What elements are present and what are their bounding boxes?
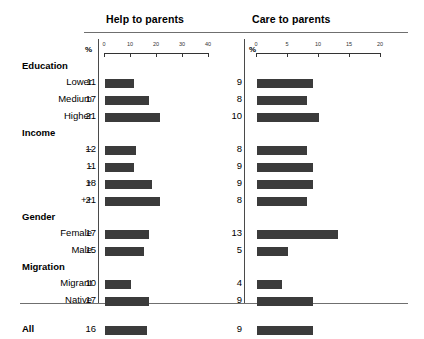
bar-care bbox=[257, 96, 307, 105]
axis-tick bbox=[380, 53, 381, 57]
row-value-help: 12 bbox=[80, 143, 96, 154]
bar-care bbox=[257, 230, 338, 239]
axis-tick bbox=[318, 53, 319, 57]
row-label: ++ bbox=[0, 194, 92, 205]
axis-tick bbox=[208, 53, 209, 57]
bar-care bbox=[257, 163, 313, 172]
bar-help bbox=[105, 230, 149, 239]
row-value-care: 8 bbox=[226, 143, 242, 154]
row-value-help: 11 bbox=[80, 76, 96, 87]
axis-tick-label: 20 bbox=[377, 41, 383, 47]
group-heading: Education bbox=[22, 60, 68, 71]
chart-row: +189 bbox=[0, 177, 424, 193]
bar-care bbox=[257, 113, 319, 122]
axis-tick-label: 10 bbox=[127, 41, 133, 47]
bar-care bbox=[257, 180, 313, 189]
panel-title-help: Help to parents bbox=[106, 13, 184, 25]
row-value-care: 5 bbox=[226, 244, 242, 255]
bar-help bbox=[105, 326, 147, 335]
row-value-care: 13 bbox=[226, 227, 242, 238]
row-value-help: 18 bbox=[80, 177, 96, 188]
axis-tick bbox=[349, 53, 350, 57]
row-value-help: 16 bbox=[80, 323, 96, 334]
row-value-care: 9 bbox=[226, 76, 242, 87]
row-label: Migrant bbox=[0, 277, 92, 288]
row-value-help: 10 bbox=[80, 277, 96, 288]
group-heading: Gender bbox=[22, 211, 55, 222]
axis-tick-label: 0 bbox=[102, 41, 105, 47]
row-label: + bbox=[0, 177, 92, 188]
row-value-help: 15 bbox=[80, 244, 96, 255]
chart-row: All169 bbox=[0, 323, 424, 339]
axis-tick bbox=[182, 53, 183, 57]
group-heading: Migration bbox=[22, 261, 65, 272]
chart-row: Migrant104 bbox=[0, 277, 424, 293]
axis-tick bbox=[104, 53, 105, 57]
row-value-help: 21 bbox=[80, 194, 96, 205]
row-value-care: 9 bbox=[226, 323, 242, 334]
bar-help bbox=[105, 180, 152, 189]
bar-care bbox=[257, 247, 288, 256]
axis-tick bbox=[256, 53, 257, 57]
row-value-help: 17 bbox=[80, 93, 96, 104]
row-value-help: 11 bbox=[80, 160, 96, 171]
row-value-care: 10 bbox=[226, 110, 242, 121]
axis-tick bbox=[287, 53, 288, 57]
bar-help bbox=[105, 96, 149, 105]
bar-help bbox=[105, 247, 144, 256]
axis-unit-help: % bbox=[85, 45, 92, 54]
row-label: Lower bbox=[0, 76, 92, 87]
chart-row: Male155 bbox=[0, 244, 424, 260]
row-value-care: 8 bbox=[226, 194, 242, 205]
chart-row: -119 bbox=[0, 160, 424, 176]
row-value-care: 9 bbox=[226, 294, 242, 305]
axis-tick bbox=[156, 53, 157, 57]
row-label: Female bbox=[0, 227, 92, 238]
axis-tick-label: 5 bbox=[285, 41, 288, 47]
bar-care bbox=[257, 79, 313, 88]
chart-row: Lower119 bbox=[0, 76, 424, 92]
bar-care bbox=[257, 146, 307, 155]
row-value-help: 21 bbox=[80, 110, 96, 121]
chart-row: --128 bbox=[0, 143, 424, 159]
row-value-help: 17 bbox=[80, 227, 96, 238]
axis-tick-label: 40 bbox=[205, 41, 211, 47]
row-label: Higher bbox=[0, 110, 92, 121]
row-label: Medium bbox=[0, 93, 92, 104]
axis-tick-label: 0 bbox=[254, 41, 257, 47]
axis-tick-label: 20 bbox=[153, 41, 159, 47]
bar-help bbox=[105, 280, 131, 289]
chart-row: Native179 bbox=[0, 294, 424, 310]
header-divider-rule bbox=[84, 32, 408, 33]
bar-help bbox=[105, 113, 160, 122]
row-label: - bbox=[0, 160, 92, 171]
row-value-help: 17 bbox=[80, 294, 96, 305]
chart-row: ++218 bbox=[0, 194, 424, 210]
row-label: Native bbox=[0, 294, 92, 305]
bar-help bbox=[105, 163, 134, 172]
group-heading: Income bbox=[22, 127, 55, 138]
row-label: Male bbox=[0, 244, 92, 255]
axis-tick bbox=[130, 53, 131, 57]
bar-care bbox=[257, 297, 313, 306]
bar-care bbox=[257, 197, 307, 206]
chart-row: Higher2110 bbox=[0, 110, 424, 126]
x-axis-help: 010203040 bbox=[104, 44, 208, 60]
row-value-care: 9 bbox=[226, 160, 242, 171]
axis-tick-label: 10 bbox=[315, 41, 321, 47]
panel-title-care: Care to parents bbox=[252, 13, 331, 25]
chart-row: Medium178 bbox=[0, 93, 424, 109]
bar-help bbox=[105, 79, 134, 88]
axis-tick-label: 30 bbox=[179, 41, 185, 47]
bar-help bbox=[105, 197, 160, 206]
bar-help bbox=[105, 297, 149, 306]
bar-care bbox=[257, 326, 313, 335]
bar-help bbox=[105, 146, 136, 155]
row-value-care: 8 bbox=[226, 93, 242, 104]
chart-row: Female1713 bbox=[0, 227, 424, 243]
row-value-care: 4 bbox=[226, 277, 242, 288]
x-axis-care: 05101520 bbox=[256, 44, 380, 60]
row-value-care: 9 bbox=[226, 177, 242, 188]
bar-care bbox=[257, 280, 282, 289]
